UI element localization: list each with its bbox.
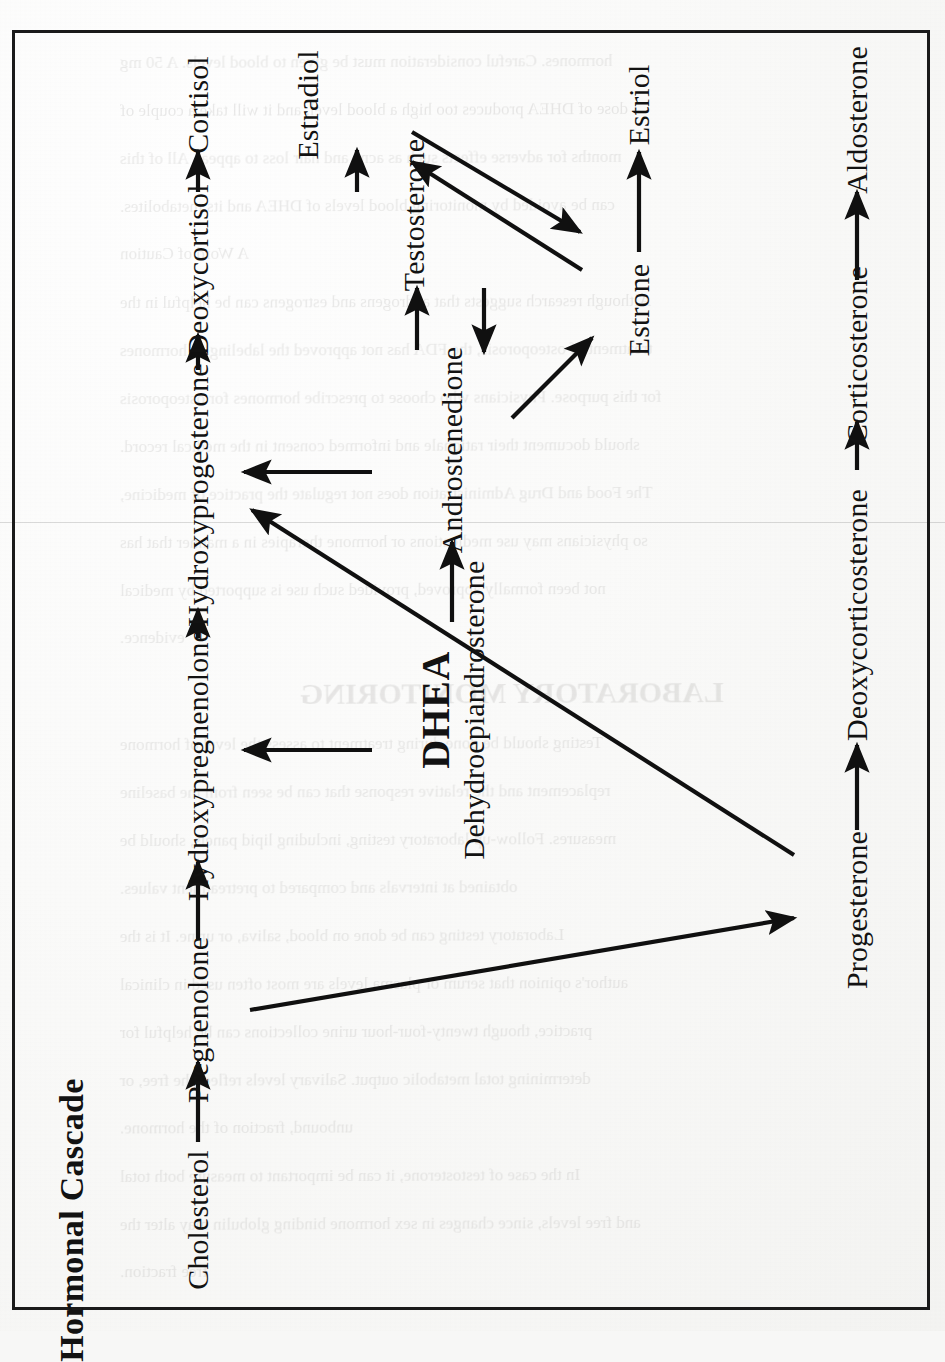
node-pregnenolone: Pregnenolone: [182, 937, 213, 1103]
node-dhea-abbreviation: DHEA: [415, 561, 457, 860]
node-estrone: Estrone: [623, 264, 654, 356]
node-cholesterol: Cholesterol: [182, 1150, 213, 1289]
node-progesterone: Progesterone: [841, 831, 872, 989]
node-testosterone: Testosterone: [398, 139, 429, 291]
diagram-canvas: Hormonal Cascade Cholesterol Pregnenolon…: [12, 30, 930, 1310]
node-hydroxypregnenolone: Hydroxypregnenolone: [182, 629, 213, 901]
figure-title: Hormonal Cascade: [54, 1078, 89, 1361]
node-deoxycortisol: Deoxycortisol: [182, 184, 213, 355]
node-aldosterone: Aldosterone: [841, 46, 872, 194]
node-hydroxyprogesterone: Hydroxyprogesterone: [182, 363, 213, 627]
arrow-progesterone-to-hydroxyprogesterone: [252, 510, 794, 855]
node-corticosterone: Corticosterone: [841, 266, 872, 444]
node-estradiol: Estradiol: [292, 50, 323, 159]
node-dhea-full-name: Dehydroepiandrosterone: [458, 561, 489, 860]
node-androstenedione: Androstenedione: [436, 347, 467, 553]
node-dhea: DHEA Dehydroepiandrosterone: [415, 561, 489, 860]
node-cortisol: Cortisol: [182, 56, 213, 153]
hormonal-cascade-diagram: Hormonal Cascade Cholesterol Pregnenolon…: [12, 30, 930, 1310]
arrow-pregnenolone-to-progesterone: [250, 918, 794, 1010]
node-deoxycorticosterone: Deoxycorticosterone: [841, 489, 872, 741]
arrow-androstenedione-to-estrone: [512, 338, 592, 418]
node-estriol: Estriol: [623, 65, 654, 146]
